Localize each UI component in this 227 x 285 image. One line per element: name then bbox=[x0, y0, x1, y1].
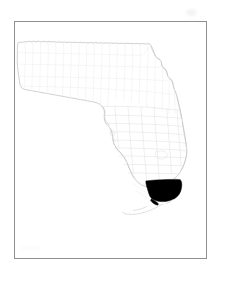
florida-keys bbox=[123, 200, 173, 214]
figure-root: Miami-Dade County bbox=[0, 0, 227, 285]
miami-dade-county-highlight bbox=[146, 179, 182, 205]
florida-map bbox=[14, 21, 207, 259]
scan-smudge-top-right-icon bbox=[186, 9, 197, 16]
